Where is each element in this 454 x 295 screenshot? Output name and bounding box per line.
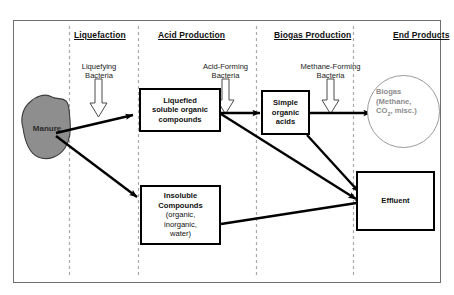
bacteria-acid-line1: Acid-Forming (196, 62, 255, 71)
node-liquefied-soluble-organic-compounds: Liquefied soluble organic compounds (139, 88, 221, 132)
liquefied-line2: soluble organic (152, 105, 208, 114)
stage-label-acid-production: Acid Production (158, 30, 225, 40)
biogas-line1: Biogas (376, 87, 417, 97)
simple-acids-box-text: Simple organic acids (270, 98, 301, 126)
liquefied-line1: Liquefied (152, 96, 208, 105)
bacteria-liquefying-line2: Bacteria (73, 71, 125, 80)
insoluble-line3: (organic, (158, 210, 202, 219)
insoluble-line4: inorganic, (158, 220, 202, 229)
manure-label: Manure (22, 124, 72, 133)
insoluble-line5: water) (158, 229, 202, 238)
diagram-graphics (0, 0, 454, 295)
biogas-line3: CO2, misc.) (376, 106, 417, 118)
biogas-co-prefix: CO (376, 106, 387, 115)
acids-line1: Simple (272, 98, 299, 107)
bacteria-label-acid-forming: Acid-Forming Bacteria (196, 62, 255, 81)
stage-label-liquefaction: Liquefaction (74, 30, 126, 40)
liquefied-box-text: Liquefied soluble organic compounds (150, 96, 210, 124)
biogas-text: Biogas (Methane, CO2, misc.) (376, 87, 417, 118)
insoluble-box-text: Insoluble Compounds (organic, inorganic,… (156, 191, 204, 238)
bacteria-methane-line1: Methane-Forming (293, 62, 368, 71)
diagram-canvas: Liquefaction Acid Production Biogas Prod… (0, 0, 454, 295)
liquefied-line3: compounds (152, 115, 208, 124)
bacteria-label-methane-forming: Methane-Forming Bacteria (293, 62, 368, 81)
node-insoluble-compounds: Insoluble Compounds (organic, inorganic,… (140, 185, 221, 245)
bacteria-label-liquefying: Liquefying Bacteria (73, 62, 125, 81)
insoluble-line1: Insoluble (158, 191, 202, 200)
acids-line3: acids (272, 117, 299, 126)
insoluble-line2: Compounds (158, 201, 202, 210)
bacteria-acid-line2: Bacteria (196, 71, 255, 80)
node-simple-organic-acids: Simple organic acids (261, 90, 310, 135)
biogas-line2: (Methane, (376, 97, 417, 107)
effluent-box-text: Effluent (379, 196, 411, 205)
bacteria-methane-line2: Bacteria (293, 71, 368, 80)
stage-label-biogas-production: Biogas Production (274, 30, 351, 40)
acids-line2: organic (272, 108, 299, 117)
biogas-co-suffix: , misc.) (391, 106, 417, 115)
node-effluent: Effluent (356, 171, 435, 231)
stage-label-end-products: End Products (393, 30, 449, 40)
bacteria-liquefying-line1: Liquefying (73, 62, 125, 71)
